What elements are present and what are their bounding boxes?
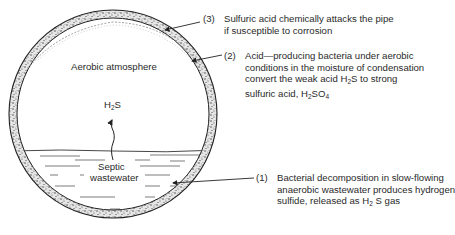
aerobic-atmosphere-label: Aerobic atmosphere — [71, 61, 157, 73]
callout-1: (1)Bacterial decomposition in slow-flowi… — [256, 172, 455, 210]
callout-1-line-3: sulfide, released as H2 S gas — [256, 195, 455, 210]
wastewater-label: wastewater — [90, 172, 139, 184]
callout-2: (2)Acid—producing bacteria under aerobic… — [224, 50, 424, 102]
callout-1-line-1: Bacterial decomposition in slow-flowing — [277, 172, 444, 183]
callout-1-line-3-tail: S gas — [373, 195, 400, 206]
callout-2-line-4-text: sulfuric acid, H — [245, 88, 308, 99]
callout-3-number: (3) — [203, 13, 224, 25]
callout-2-line-4: sulfuric acid, H2SO4 — [224, 88, 424, 103]
callout-2-number: (2) — [224, 50, 245, 62]
septic-label: Septic — [98, 161, 125, 173]
pipe-wall — [9, 10, 217, 218]
callout-3-line-2: if susceptible to corrosion — [203, 25, 394, 37]
callout-1-line-2: anaerobic wastewater produces hydrogen — [256, 184, 455, 196]
callout-2-line-4-mid: SO — [312, 88, 326, 99]
callout-2-line-1: Acid—producing bacteria under aerobic — [245, 50, 414, 61]
h2s-label: H2S — [104, 99, 121, 114]
callout-2-line-3: convert the weak acid H2S to strong — [224, 73, 424, 88]
callout-1-number: (1) — [256, 172, 277, 184]
leader-3 — [165, 22, 200, 30]
callout-2-line-2: conditions in the moisture of condensati… — [224, 62, 424, 74]
gas-rising-arrow — [111, 120, 114, 160]
callout-2-line-4-sub2: 4 — [325, 93, 329, 100]
callout-2-line-3-tail: S to strong — [351, 73, 397, 84]
callout-3: (3)Sulfuric acid chemically attacks the … — [203, 13, 394, 36]
callout-2-line-3-text: convert the weak acid H — [245, 73, 347, 84]
callout-3-line-1: Sulfuric acid chemically attacks the pip… — [224, 13, 394, 24]
h2s-base: H — [104, 99, 111, 110]
h2s-tail: S — [115, 99, 121, 110]
callout-1-line-3-text: sulfide, released as H — [277, 195, 369, 206]
